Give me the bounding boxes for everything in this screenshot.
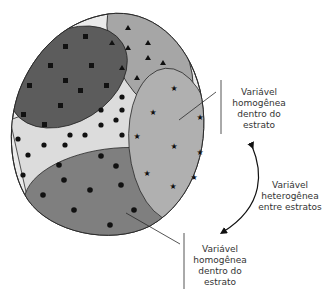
label-heterogeneous: Variável heterogênea entre estratos bbox=[258, 180, 322, 213]
svg-text:★: ★ bbox=[133, 132, 140, 141]
svg-text:★: ★ bbox=[196, 148, 203, 157]
svg-text:★: ★ bbox=[196, 113, 203, 122]
label-homogeneous-bottom: Variável homogênea dentro do estrato bbox=[188, 244, 252, 288]
svg-text:★: ★ bbox=[149, 108, 156, 117]
stratified-sampling-diagram: ★★★ ★★★ ★★★ bbox=[0, 0, 322, 299]
svg-text:★: ★ bbox=[170, 142, 177, 151]
double-arrow bbox=[223, 146, 259, 232]
svg-text:★: ★ bbox=[190, 173, 197, 182]
svg-text:★: ★ bbox=[169, 182, 176, 191]
label-homogeneous-top: Variável homogênea dentro do estrato bbox=[226, 87, 292, 131]
svg-text:★: ★ bbox=[143, 169, 150, 178]
svg-text:★: ★ bbox=[170, 84, 177, 93]
